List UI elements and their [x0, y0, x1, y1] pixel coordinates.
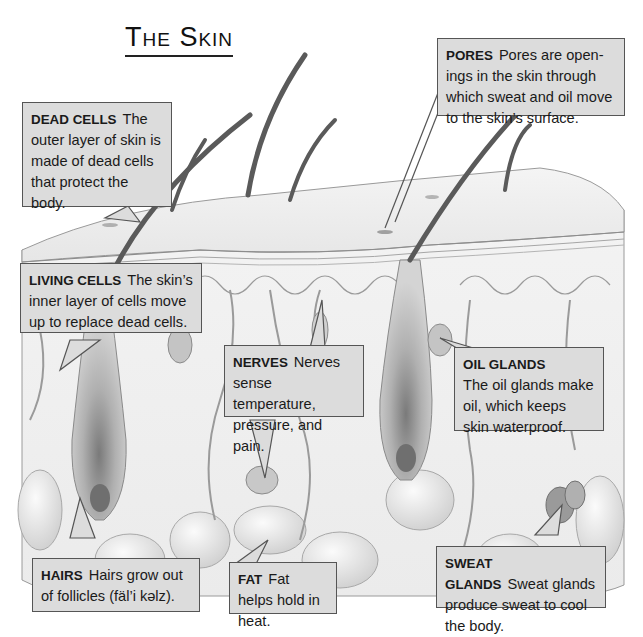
callout-dead-cells: DEAD CELLSThe outer layer of skin is mad… [22, 102, 172, 207]
callout-heading: FAT [238, 572, 262, 587]
callout-heading: DEAD CELLS [31, 112, 117, 127]
pressure-receptor [246, 466, 278, 494]
callout-heading: LIVING CELLS [29, 273, 121, 288]
callout-heading: NERVES [233, 355, 288, 370]
pore [425, 195, 439, 199]
diagram-title: The Skin [125, 22, 233, 57]
callout-living-cells: LIVING CELLSThe skin’s inner layer of ce… [20, 263, 202, 333]
callout-heading: HAIRS [41, 568, 83, 583]
callout-heading: OIL GLANDS [463, 354, 589, 375]
pore [102, 223, 118, 227]
callout-text: The oil glands make oil, which keeps ski… [463, 377, 594, 435]
callout-pores: PORESPores are open-ings in the skin thr… [437, 38, 625, 116]
title-text: The Skin [125, 22, 233, 52]
callout-sweat-glands: SWEAT GLANDSSweat glands produce sweat t… [436, 546, 606, 608]
callout-hairs: HAIRSHairs grow out of follicles (fäl’i … [32, 558, 200, 612]
callout-heading: PORES [446, 48, 493, 63]
callout-nerves: NERVESNerves sense temperature, pressure… [224, 345, 364, 417]
callout-fat: FATFat helps hold in heat. [229, 562, 337, 614]
callout-heading: SWEAT GLANDS [445, 556, 502, 592]
callout-oil-glands: OIL GLANDSThe oil glands make oil, which… [454, 347, 604, 431]
pore [377, 230, 393, 234]
